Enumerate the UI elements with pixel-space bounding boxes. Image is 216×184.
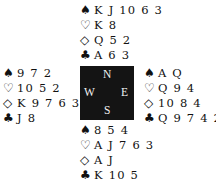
west-hearts: ♡10 5 2	[3, 81, 80, 96]
south-spades: ♠8 5 4	[80, 123, 154, 138]
west-diamonds: ◇K 9 7 6 3	[3, 96, 80, 111]
diamond-icon: ◇	[80, 33, 94, 48]
east-hand: ♠A Q ♡Q 9 4 ◇10 8 4 ♣Q 9 7 4 2	[144, 66, 216, 126]
club-icon: ♣	[80, 48, 94, 63]
spade-icon: ♠	[80, 123, 94, 138]
spade-icon: ♠	[80, 3, 94, 18]
east-clubs: ♣Q 9 7 4 2	[144, 111, 216, 126]
west-spades: ♠9 7 2	[3, 66, 80, 81]
south-hand: ♠8 5 4 ♡A J 7 6 3 ◇A J ♣K 10 5	[80, 123, 154, 183]
north-hand: ♠K J 10 6 3 ♡K 8 ◇Q 5 2 ♣A 6 3	[80, 3, 163, 63]
north-clubs: ♣A 6 3	[80, 48, 163, 63]
diamond-icon: ◇	[80, 153, 94, 168]
diamond-icon: ◇	[3, 96, 17, 111]
heart-icon: ♡	[80, 18, 94, 33]
west-clubs: ♣J 8	[3, 111, 80, 126]
east-spades: ♠A Q	[144, 66, 216, 81]
club-icon: ♣	[3, 111, 17, 126]
heart-icon: ♡	[144, 81, 158, 96]
south-diamonds: ◇A J	[80, 153, 154, 168]
diamond-icon: ◇	[144, 96, 158, 111]
club-icon: ♣	[80, 168, 94, 183]
south-hearts: ♡A J 7 6 3	[80, 138, 154, 153]
spade-icon: ♠	[3, 66, 17, 81]
east-diamonds: ◇10 8 4	[144, 96, 216, 111]
compass-south: S	[104, 104, 110, 116]
heart-icon: ♡	[3, 81, 17, 96]
south-clubs: ♣K 10 5	[80, 168, 154, 183]
spade-icon: ♠	[144, 66, 158, 81]
compass-west: W	[84, 86, 95, 98]
heart-icon: ♡	[80, 138, 94, 153]
compass-box: N W E S	[80, 66, 134, 120]
east-hearts: ♡Q 9 4	[144, 81, 216, 96]
north-hearts: ♡K 8	[80, 18, 163, 33]
west-hand: ♠9 7 2 ♡10 5 2 ◇K 9 7 6 3 ♣J 8	[3, 66, 80, 126]
compass-north: N	[103, 68, 111, 80]
north-diamonds: ◇Q 5 2	[80, 33, 163, 48]
compass-east: E	[121, 86, 128, 98]
north-spades: ♠K J 10 6 3	[80, 3, 163, 18]
